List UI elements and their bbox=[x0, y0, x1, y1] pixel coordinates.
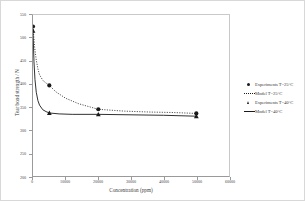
legend-item-label: Experiments T=40°C bbox=[255, 100, 293, 106]
series-line bbox=[33, 26, 196, 113]
solid-line-glyph bbox=[244, 111, 255, 112]
dotted-line-icon bbox=[244, 89, 255, 98]
series-line bbox=[33, 31, 196, 117]
x-tick-label: 20000 bbox=[81, 179, 115, 184]
x-tick-label: 60000 bbox=[213, 179, 247, 184]
x-tick-label: 50000 bbox=[180, 179, 214, 184]
chart-figure: Tear bond strength / N 55050045040035030… bbox=[0, 0, 305, 201]
x-tick-label: 10000 bbox=[48, 179, 82, 184]
legend-item: Model T=25°C bbox=[244, 89, 304, 98]
y-tick-label: 350 bbox=[4, 105, 26, 110]
circle-marker-icon bbox=[244, 80, 255, 89]
y-tick-label: 400 bbox=[4, 81, 26, 86]
x-axis-title: Concentration (ppm) bbox=[32, 187, 230, 194]
data-point-triangle bbox=[33, 28, 35, 32]
circle-marker-glyph bbox=[247, 83, 250, 86]
legend-item-label: Experiments T=25°C bbox=[255, 82, 293, 88]
y-tick-label: 250 bbox=[4, 151, 26, 156]
data-point-circle bbox=[33, 24, 35, 28]
data-point-circle bbox=[96, 107, 100, 111]
y-tick-label: 450 bbox=[4, 58, 26, 63]
y-tick-label: 300 bbox=[4, 128, 26, 133]
triangle-marker-glyph bbox=[247, 101, 249, 104]
x-tick-label: 40000 bbox=[147, 179, 181, 184]
y-tick-label: 550 bbox=[4, 12, 26, 17]
plot-canvas bbox=[33, 15, 229, 176]
x-tick-label: 0 bbox=[15, 179, 49, 184]
chart-legend: Experiments T=25°CModel T=25°CExperiment… bbox=[244, 80, 304, 116]
legend-item-label: Model T=40°C bbox=[255, 109, 282, 115]
dotted-line-glyph bbox=[244, 93, 255, 94]
legend-item: Experiments T=40°C bbox=[244, 98, 304, 107]
y-tick-label: 500 bbox=[4, 35, 26, 40]
x-tick-label: 30000 bbox=[114, 179, 148, 184]
solid-line-icon bbox=[244, 107, 255, 116]
plot-area bbox=[32, 14, 230, 177]
data-point-circle bbox=[47, 83, 51, 87]
triangle-marker-icon bbox=[244, 98, 255, 107]
legend-item: Model T=40°C bbox=[244, 107, 304, 116]
legend-item: Experiments T=25°C bbox=[244, 80, 304, 89]
legend-item-label: Model T=25°C bbox=[255, 91, 282, 97]
y-axis-title: Tear bond strength / N bbox=[14, 33, 21, 153]
